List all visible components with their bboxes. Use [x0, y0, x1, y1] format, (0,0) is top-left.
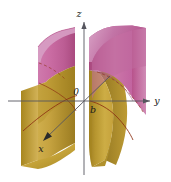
- figure-canvas: z y x 0 b: [0, 0, 171, 182]
- b-vertex-label: b: [90, 104, 96, 115]
- z-axis-arrowhead: [81, 22, 86, 29]
- hyperboloid-diagram: z y x 0 b: [0, 0, 171, 182]
- left-sheet: [21, 28, 77, 170]
- origin-label: 0: [73, 87, 79, 97]
- x-axis-label: x: [38, 143, 44, 154]
- right-sheet: [89, 26, 146, 168]
- y-axis-label: y: [153, 95, 160, 106]
- z-axis-label: z: [75, 8, 82, 19]
- y-axis-arrowhead: [143, 98, 150, 103]
